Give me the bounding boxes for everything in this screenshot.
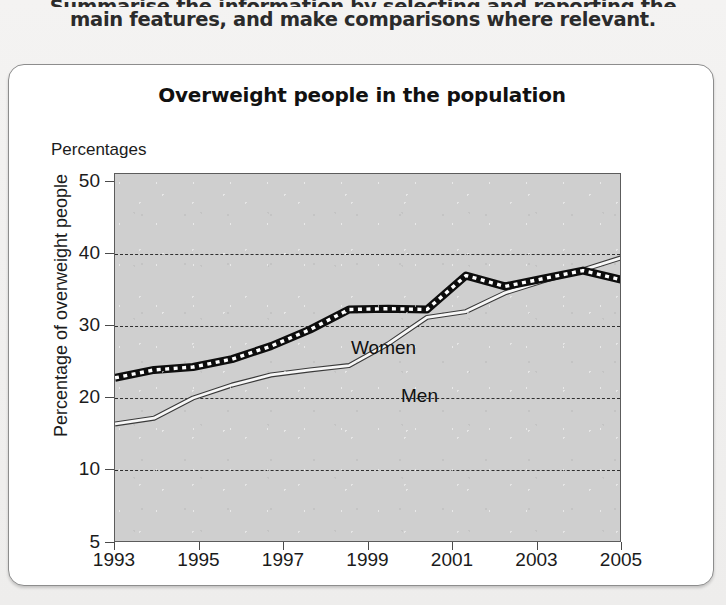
- x-tick-label: 1997: [243, 549, 323, 571]
- chart-card: Overweight people in the population Perc…: [8, 64, 714, 586]
- x-tick-mark: [621, 542, 622, 550]
- series-label-women: Women: [351, 337, 416, 359]
- x-tick-mark: [452, 542, 453, 550]
- y-tick-label: 40: [40, 242, 100, 264]
- x-tick-mark: [114, 542, 115, 550]
- instruction-text: Summarise the information by selecting a…: [0, 0, 726, 33]
- y-tick-mark: [105, 181, 114, 182]
- y-tick-mark: [105, 469, 114, 470]
- x-tick-label: 1999: [328, 549, 408, 571]
- x-tick-label: 1993: [74, 549, 154, 571]
- y-tick-label: 10: [40, 458, 100, 480]
- women-line-band: [115, 271, 621, 378]
- x-tick-mark: [199, 542, 200, 550]
- y-tick-label: 20: [40, 386, 100, 408]
- x-tick-mark: [368, 542, 369, 550]
- y-tick-label: 30: [40, 314, 100, 336]
- x-tick-label: 2003: [497, 549, 577, 571]
- y-tick-mark: [105, 325, 114, 326]
- x-tick-mark: [537, 542, 538, 550]
- series-label-men: Men: [401, 385, 438, 407]
- y-tick-mark: [105, 542, 114, 543]
- y-tick-mark: [105, 253, 114, 254]
- x-tick-label: 2001: [412, 549, 492, 571]
- x-tick-label: 1995: [159, 549, 239, 571]
- y-tick-mark: [105, 397, 114, 398]
- women-line-dashes: [115, 271, 621, 378]
- x-tick-mark: [283, 542, 284, 550]
- y-tick-label: 50: [40, 170, 100, 192]
- instruction-line-1: Summarise the information by selecting a…: [0, 0, 726, 7]
- plot-wrapper: Percentage of overweight people 51020304…: [9, 65, 715, 587]
- instruction-line-2: main features, and make comparisons wher…: [0, 7, 726, 33]
- x-tick-label: 2005: [581, 549, 661, 571]
